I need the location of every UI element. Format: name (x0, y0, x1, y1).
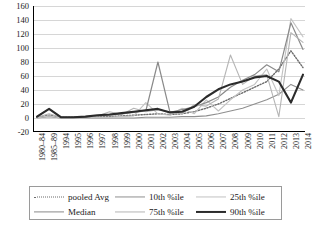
solid-line-swatch (34, 207, 64, 216)
x-tick-label: 1980–84 (39, 133, 47, 161)
legend-item[interactable]: 75th %ile (115, 204, 196, 219)
series-line (37, 33, 303, 118)
x-axis: 1980–841985–8919941995199619971998199920… (33, 133, 305, 181)
x-tick-label: 2005 (196, 133, 204, 149)
x-tick-label: 1997 (99, 133, 107, 149)
series-line (37, 51, 303, 118)
solid-line-swatch (115, 192, 145, 201)
legend-label: 90th %ile (230, 207, 269, 217)
x-tick-label: 2006 (208, 133, 216, 149)
legend-item[interactable]: 10th %ile (115, 189, 196, 204)
x-tick-label: 2011 (269, 133, 277, 149)
x-tick-label: 2008 (232, 133, 240, 149)
legend-label: 25th %ile (230, 192, 269, 202)
x-tick-label: 2012 (281, 133, 289, 149)
x-tick-label: 2003 (172, 133, 180, 149)
x-tick-label: 2010 (257, 133, 265, 149)
legend-label: 75th %ile (149, 207, 188, 217)
legend-label: Median (68, 207, 100, 217)
y-tick-label: 20 (21, 100, 30, 109)
legend-label: 10th %ile (149, 192, 188, 202)
x-tick-label: 2001 (148, 133, 156, 149)
x-tick-label: 1996 (87, 133, 95, 149)
legend-item[interactable]: 90th %ile (196, 204, 277, 219)
legend-label: pooled Avg (68, 192, 113, 202)
y-tick-label: 120 (16, 30, 29, 39)
x-tick-label: 1999 (124, 133, 132, 149)
legend-item[interactable]: pooled Avg (34, 189, 115, 204)
y-tick-label: 160 (16, 2, 29, 11)
series-layer (34, 6, 306, 132)
y-tick-label: 60 (21, 72, 30, 81)
y-tick-label: 80 (21, 58, 30, 67)
x-tick-label: 2013 (293, 133, 301, 149)
y-tick-label: -20 (18, 128, 29, 137)
light-line-swatch (115, 207, 145, 216)
chart-legend: pooled Avg10th %ile25th %ileMedian75th %… (29, 186, 282, 220)
x-tick-label: 2014 (305, 133, 312, 149)
legend-item[interactable]: 25th %ile (196, 189, 277, 204)
y-tick-label: 100 (16, 44, 29, 53)
x-tick-label: 1998 (112, 133, 120, 149)
x-tick-label: 2007 (220, 133, 228, 149)
legend-item[interactable]: Median (34, 204, 115, 219)
y-axis: -20020406080100120140160 (0, 0, 33, 145)
light-line-swatch (196, 192, 226, 201)
thick-line-swatch (196, 207, 226, 216)
line-chart: -20020406080100120140160 1980–841985–891… (0, 0, 312, 229)
dotted-line-swatch (34, 192, 64, 201)
x-tick-label: 2009 (245, 133, 253, 149)
x-tick-label: 2002 (160, 133, 168, 149)
y-tick-label: 40 (21, 86, 30, 95)
x-tick-label: 2004 (184, 133, 192, 149)
y-tick-label: 140 (16, 16, 29, 25)
x-tick-label: 1985–89 (51, 133, 59, 161)
series-line (37, 23, 303, 118)
plot-area (33, 6, 305, 132)
x-tick-label: 2000 (136, 133, 144, 149)
y-tick-label: 0 (25, 114, 29, 123)
x-tick-label: 1994 (63, 133, 71, 149)
x-tick-label: 1995 (75, 133, 83, 149)
